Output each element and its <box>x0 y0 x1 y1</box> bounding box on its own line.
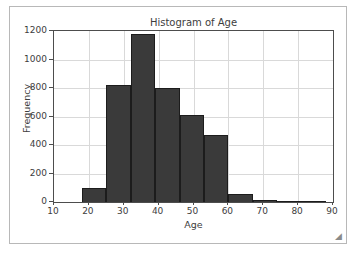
x-tick-label: 30 <box>109 207 137 216</box>
histogram-bar <box>180 115 204 202</box>
figure-canvas: Histogram of Age Frequency Age 020040060… <box>9 6 347 244</box>
histogram-bar <box>82 188 106 202</box>
y-tick-label: 800 <box>30 83 47 92</box>
histogram-bar <box>106 85 130 202</box>
histogram-bar <box>277 201 301 202</box>
x-tick-label: 90 <box>318 207 346 216</box>
x-tick-label: 50 <box>179 207 207 216</box>
y-tick-label: 1000 <box>24 55 47 64</box>
grid-line-horizontal <box>54 60 333 61</box>
y-tick-label: 600 <box>30 112 47 121</box>
chart-title: Histogram of Age <box>53 17 334 28</box>
histogram-bar <box>155 88 179 202</box>
y-tick-label: 0 <box>41 197 47 206</box>
x-tick-label: 20 <box>74 207 102 216</box>
grid-line-horizontal <box>54 88 333 89</box>
plot-area <box>53 30 334 203</box>
y-tick-label: 200 <box>30 169 47 178</box>
x-tick-label: 40 <box>144 207 172 216</box>
histogram-bar <box>131 34 155 202</box>
histogram-bar <box>253 200 277 202</box>
x-tick-label: 10 <box>39 207 67 216</box>
x-tick-label: 60 <box>213 207 241 216</box>
x-tick-label: 70 <box>248 207 276 216</box>
y-tick-label: 1200 <box>24 26 47 35</box>
x-tick-label: 80 <box>283 207 311 216</box>
y-axis-label: Frequency <box>21 69 32 149</box>
histogram-bar <box>228 194 252 202</box>
resize-handle-icon[interactable]: ◢ <box>334 232 343 241</box>
y-tick-label: 400 <box>30 140 47 149</box>
x-axis-label: Age <box>53 219 334 230</box>
histogram-bar <box>302 201 326 202</box>
histogram-bar <box>204 135 228 202</box>
